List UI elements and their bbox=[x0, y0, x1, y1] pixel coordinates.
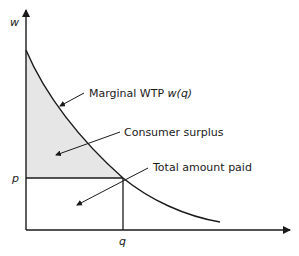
total-paid-area bbox=[26, 178, 123, 230]
curve-label: Marginal WTP w(q) bbox=[89, 87, 192, 100]
consumer-surplus-area bbox=[26, 50, 123, 178]
total-paid-label: Total amount paid bbox=[152, 161, 252, 174]
y-axis-label: w bbox=[10, 16, 19, 29]
consumer-surplus-diagram: w p q Marginal WTP w(q) Consumer surplus… bbox=[0, 0, 299, 256]
curve-label-arrow bbox=[60, 93, 84, 106]
consumer-surplus-label: Consumer surplus bbox=[124, 126, 224, 139]
quantity-tick-label: q bbox=[119, 235, 126, 248]
price-tick-label: p bbox=[11, 172, 19, 185]
